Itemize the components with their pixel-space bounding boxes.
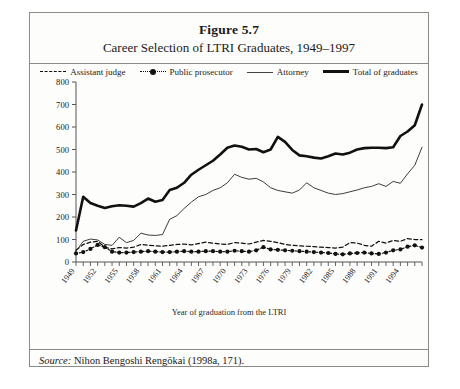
svg-text:1958: 1958 bbox=[124, 266, 141, 284]
svg-text:1952: 1952 bbox=[81, 266, 98, 284]
svg-text:1991: 1991 bbox=[362, 266, 379, 284]
svg-text:1967: 1967 bbox=[189, 266, 206, 284]
svg-text:1988: 1988 bbox=[341, 266, 358, 284]
svg-text:1973: 1973 bbox=[232, 266, 249, 284]
figure-number: Figure 5.7 bbox=[40, 22, 418, 39]
svg-text:400: 400 bbox=[56, 167, 69, 177]
chart-area: Assistant judge Public prosecutor Attorn… bbox=[30, 64, 428, 334]
svg-text:1976: 1976 bbox=[254, 266, 271, 284]
line-chart-plot: 0100200300400500600700800194919521955195… bbox=[30, 64, 428, 306]
svg-text:300: 300 bbox=[56, 190, 69, 200]
svg-text:1970: 1970 bbox=[211, 266, 228, 284]
svg-text:1979: 1979 bbox=[276, 266, 293, 284]
svg-text:800: 800 bbox=[56, 77, 69, 87]
svg-text:1994: 1994 bbox=[384, 266, 401, 284]
figure-source-note: Source: Nihon Bengoshi Rengōkai (1998a, … bbox=[30, 349, 428, 366]
svg-text:0: 0 bbox=[65, 257, 69, 267]
svg-text:700: 700 bbox=[56, 100, 69, 110]
svg-text:100: 100 bbox=[56, 235, 69, 245]
figure-title-block: Figure 5.7 Career Selection of LTRI Grad… bbox=[30, 13, 428, 64]
source-label: Source: bbox=[39, 355, 71, 366]
svg-text:600: 600 bbox=[56, 122, 69, 132]
figure-caption: Career Selection of LTRI Graduates, 1949… bbox=[40, 40, 418, 57]
svg-text:1985: 1985 bbox=[319, 266, 336, 284]
svg-text:1961: 1961 bbox=[146, 266, 163, 284]
x-axis-title: Year of graduation from the LTRI bbox=[30, 307, 428, 317]
svg-text:500: 500 bbox=[56, 145, 69, 155]
svg-text:1949: 1949 bbox=[59, 266, 76, 284]
svg-text:1982: 1982 bbox=[297, 266, 314, 284]
svg-text:200: 200 bbox=[56, 212, 69, 222]
svg-text:1964: 1964 bbox=[168, 266, 185, 284]
figure-container: Figure 5.7 Career Selection of LTRI Grad… bbox=[29, 12, 429, 367]
source-text: Nihon Bengoshi Rengōkai (1998a, 171). bbox=[71, 355, 244, 366]
svg-text:1955: 1955 bbox=[103, 266, 120, 284]
